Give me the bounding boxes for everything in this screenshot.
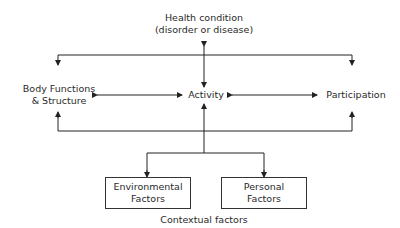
node-body-functions: Body Functions & Structure xyxy=(14,83,104,107)
environmental-factors-line1: Environmental xyxy=(113,181,182,193)
bottom-bus-line xyxy=(58,113,352,131)
health-condition-subtitle: (disorder or disease) xyxy=(130,24,278,36)
node-environmental-factors: Environmental Factors xyxy=(105,177,191,209)
body-functions-line2: & Structure xyxy=(14,95,104,107)
node-activity: Activity xyxy=(182,89,230,101)
node-personal-factors: Personal Factors xyxy=(221,177,307,209)
personal-factors-line2: Factors xyxy=(247,193,281,205)
body-functions-line1: Body Functions xyxy=(14,83,104,95)
personal-factors-line1: Personal xyxy=(244,181,284,193)
contextual-factors-caption: Contextual factors xyxy=(130,214,278,226)
health-condition-title: Health condition xyxy=(130,12,278,24)
node-participation: Participation xyxy=(318,89,394,101)
node-health-condition: Health condition (disorder or disease) xyxy=(130,12,278,36)
top-bus-line xyxy=(58,55,352,64)
environmental-factors-line2: Factors xyxy=(131,193,165,205)
context-branch-line xyxy=(147,153,264,176)
